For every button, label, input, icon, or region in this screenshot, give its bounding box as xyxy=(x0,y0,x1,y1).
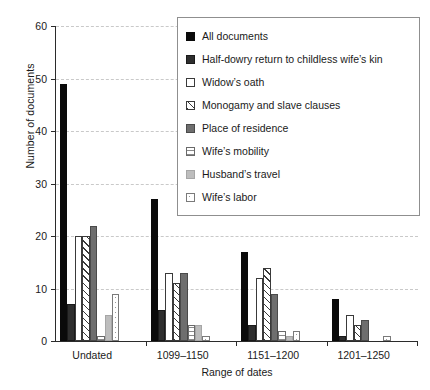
bar xyxy=(158,310,165,342)
bar xyxy=(271,294,278,341)
bar xyxy=(188,325,195,341)
legend-label: All documents xyxy=(202,31,268,42)
legend-swatch-icon xyxy=(186,193,195,202)
bar xyxy=(332,299,339,341)
y-tick-label: 50 xyxy=(35,73,47,85)
bar xyxy=(60,84,67,341)
x-tick-mark xyxy=(236,341,237,346)
x-tick-label: 1099–1150 xyxy=(157,349,209,361)
y-axis-title: Number of documents xyxy=(24,26,36,206)
bar xyxy=(286,336,293,341)
legend-label: Monogamy and slave clauses xyxy=(202,100,340,111)
bar xyxy=(75,236,82,341)
legend-swatch-icon xyxy=(186,170,195,179)
legend-swatch-icon xyxy=(186,32,195,41)
bar xyxy=(278,331,285,342)
bar xyxy=(112,294,119,341)
legend-swatch-icon xyxy=(186,78,195,87)
bar xyxy=(361,320,368,341)
bar xyxy=(202,336,209,341)
bar xyxy=(97,336,104,341)
legend-item: Place of residence xyxy=(186,117,411,140)
legend-item: Wife’s mobility xyxy=(186,140,411,163)
legend-swatch-icon xyxy=(186,147,195,156)
y-tick-label: 60 xyxy=(35,20,47,32)
x-tick-label: 1151–1200 xyxy=(247,349,299,361)
bar-group: Undated xyxy=(56,26,147,341)
legend-label: Wife’s mobility xyxy=(202,146,269,157)
legend-swatch-icon xyxy=(186,101,195,110)
legend-item: Husband’s travel xyxy=(186,163,411,186)
x-tick-mark xyxy=(146,341,147,346)
legend-label: Wife’s labor xyxy=(202,192,257,203)
legend-label: Husband’s travel xyxy=(202,169,280,180)
bar xyxy=(346,315,353,341)
bar xyxy=(82,236,89,341)
bar xyxy=(105,315,112,341)
bar-chart: Number of documents 0102030405060 Undate… xyxy=(0,0,430,390)
bar xyxy=(293,331,300,342)
legend-swatch-icon xyxy=(186,55,195,64)
x-tick-mark xyxy=(327,341,328,346)
bar xyxy=(151,199,158,341)
bar xyxy=(354,325,361,341)
bar xyxy=(339,336,346,341)
legend-item: All documents xyxy=(186,25,411,48)
y-tick-label: 0 xyxy=(41,335,47,347)
legend-swatch-icon xyxy=(186,124,195,133)
y-tick-label: 30 xyxy=(35,178,47,190)
x-axis-title: Range of dates xyxy=(56,366,418,378)
bar xyxy=(173,283,180,341)
bar xyxy=(263,268,270,342)
bar xyxy=(241,252,248,341)
legend-label: Widow’s oath xyxy=(202,77,264,88)
bar xyxy=(383,336,390,341)
y-tick-mark xyxy=(51,341,56,342)
bar xyxy=(195,325,202,341)
y-tick-label: 20 xyxy=(35,230,47,242)
y-tick-label: 40 xyxy=(35,125,47,137)
bar xyxy=(165,273,172,341)
legend-item: Widow’s oath xyxy=(186,71,411,94)
x-tick-label: Undated xyxy=(72,349,112,361)
y-tick-label: 10 xyxy=(35,283,47,295)
x-tick-label: 1201–1250 xyxy=(337,349,390,361)
legend-label: Place of residence xyxy=(202,123,288,134)
legend-item: Half-dowry return to childless wife’s ki… xyxy=(186,48,411,71)
bar xyxy=(256,278,263,341)
bar xyxy=(248,325,255,341)
bar xyxy=(67,304,74,341)
legend-label: Half-dowry return to childless wife’s ki… xyxy=(202,54,383,65)
legend-item: Wife’s labor xyxy=(186,186,411,209)
bar xyxy=(90,226,97,342)
x-tick-mark xyxy=(417,341,418,346)
bar xyxy=(180,273,187,341)
legend: All documentsHalf-dowry return to childl… xyxy=(177,17,420,216)
legend-item: Monogamy and slave clauses xyxy=(186,94,411,117)
